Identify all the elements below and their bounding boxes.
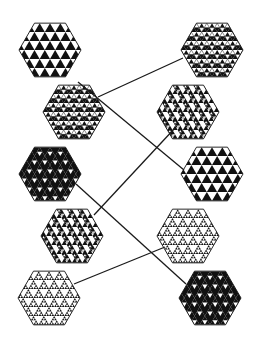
hexagon-R4-sierpinski (100, 209, 258, 263)
hexagon-L2-outlined (0, 85, 170, 139)
matching-diagram (0, 0, 258, 344)
hexagon-L1-big (0, 23, 143, 77)
hexagon-R5-holes (122, 271, 258, 325)
hexagon-L5-sierpinski (0, 271, 142, 325)
hexagon-L3-holes (0, 147, 148, 201)
hexagon-R1-outlined (124, 23, 258, 77)
connector-L4-R2 (94, 128, 175, 215)
hexagon-R2-mixed (100, 85, 258, 139)
hexagon-R3-big (124, 147, 258, 201)
hexagon-layer (0, 23, 258, 325)
